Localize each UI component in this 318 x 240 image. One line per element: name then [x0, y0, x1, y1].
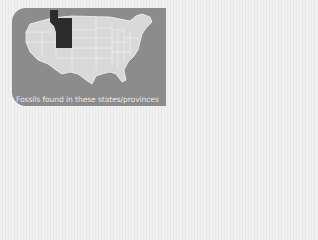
fossil-map-card: Fossils found in these states/provinces [12, 8, 166, 106]
wyoming-highlight [56, 32, 72, 48]
map-caption: Fossils found in these states/provinces [16, 95, 166, 104]
us-landmass [26, 14, 152, 84]
us-map [12, 8, 166, 106]
